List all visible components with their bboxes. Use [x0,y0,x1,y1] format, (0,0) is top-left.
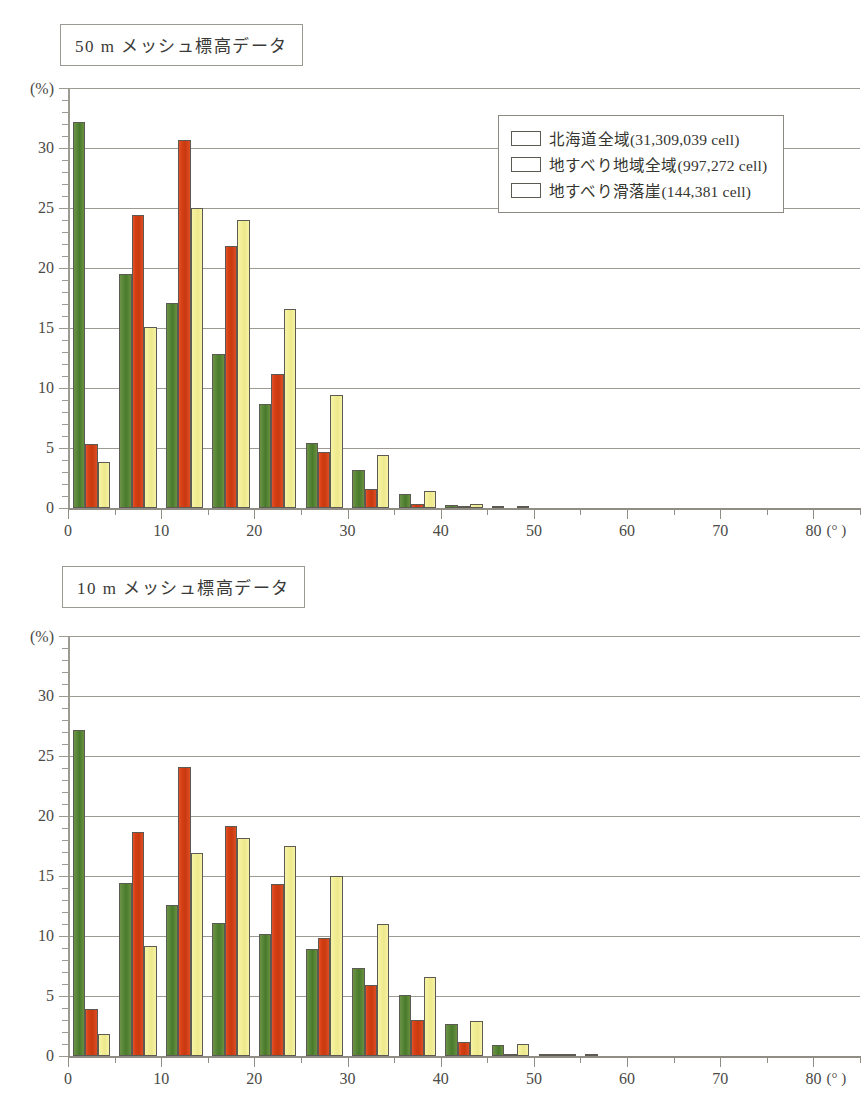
bar [352,968,364,1056]
bar [85,1009,97,1056]
x-axis-label: 0 [64,522,72,540]
x-tick-major [720,508,721,519]
x-tick-major [441,508,442,519]
y-tick-major [59,88,68,89]
x-tick-minor [394,508,395,515]
y-axis-label: 0 [46,499,54,517]
legend-swatch-green [511,131,541,146]
x-tick-minor [860,508,861,515]
x-tick-minor [115,508,116,515]
y-axis-label: 15 [38,319,54,337]
x-axis-label: 10 [153,1070,169,1088]
bar [458,1042,470,1056]
y-axis-label: 30 [38,687,54,705]
x-axis-label: 80 [805,522,821,540]
y-axis-label: 20 [38,259,54,277]
y-tick-major [59,268,68,269]
bar [144,946,156,1056]
y-tick-major [59,1056,68,1057]
y-axis-label: 5 [46,439,54,457]
bar [132,215,144,508]
y-axis-label: 20 [38,807,54,825]
bar [306,443,318,508]
x-axis-line [68,508,860,510]
bar [178,140,190,508]
bar [191,208,203,508]
x-tick-minor [767,508,768,515]
x-tick-major [68,508,69,519]
bar [330,395,342,508]
bar [132,832,144,1056]
bar [225,826,237,1056]
bar [225,246,237,508]
x-tick-minor [487,1056,488,1063]
bar [399,494,411,508]
y-tick-major [59,756,68,757]
x-tick-major [813,1056,814,1067]
x-tick-major [254,1056,255,1067]
chart-10m-block: 10 m メッシュ標高データ (%) 051015202530 01020304… [0,552,868,1105]
legend-label: 北海道全域(31,309,039 cell) [549,127,740,149]
x-axis-label: 60 [619,1070,635,1088]
y-tick-major [59,448,68,449]
x-axis-label: 20 [246,1070,262,1088]
chart-50m-title: 50 m メッシュ標高データ [60,24,303,66]
bar [330,876,342,1056]
legend-item: 地すべり地域全域(997,272 cell) [511,151,767,177]
x-tick-minor [301,508,302,515]
x-tick-major [161,1056,162,1067]
bar [318,452,330,508]
x-axis-label: 40 [433,522,449,540]
x-axis-label: 50 [526,522,542,540]
x-axis-label: 50 [526,1070,542,1088]
x-axis-label: 20 [246,522,262,540]
y-axis-label: 25 [38,199,54,217]
x-tick-major [720,1056,721,1067]
x-tick-minor [580,508,581,515]
x-tick-minor [860,1056,861,1063]
bar [144,327,156,508]
legend-item: 北海道全域(31,309,039 cell) [511,125,767,151]
y-axis-label: 10 [38,379,54,397]
y-tick-major [59,816,68,817]
bar [284,846,296,1056]
bar [470,1021,482,1056]
bar [259,934,271,1056]
chart-10m-bars [68,636,860,1056]
legend-label: 地すべり滑落崖(144,381 cell) [549,179,751,201]
bar [119,274,131,508]
bar [178,767,190,1056]
x-tick-minor [394,1056,395,1063]
bar [271,884,283,1056]
chart-50m-block: 50 m メッシュ標高データ (%) 051015202530 01020304… [0,0,868,552]
x-axis-label: 70 [712,522,728,540]
x-tick-minor [767,1056,768,1063]
bar [212,354,224,508]
bar [365,489,377,508]
x-tick-major [534,508,535,519]
y-axis-label: 15 [38,867,54,885]
bar [119,883,131,1056]
x-axis-label: 0 [64,1070,72,1088]
x-tick-minor [208,508,209,515]
bar [365,985,377,1056]
x-axis-unit: (° ) [826,522,846,539]
x-tick-major [254,508,255,519]
bar [85,444,97,508]
bar [424,977,436,1056]
y-axis-label: 10 [38,927,54,945]
x-tick-major [627,508,628,519]
y-tick-major [59,996,68,997]
bar [212,923,224,1056]
chart-50m-legend: 北海道全域(31,309,039 cell) 地すべり地域全域(997,272 … [498,115,784,213]
bar [424,491,436,508]
y-tick-major [59,936,68,937]
x-tick-minor [115,1056,116,1063]
bar [259,404,271,508]
x-tick-minor [301,1056,302,1063]
x-tick-major [534,1056,535,1067]
y-tick-major [59,148,68,149]
x-tick-major [348,508,349,519]
x-tick-minor [674,508,675,515]
x-tick-minor [208,1056,209,1063]
